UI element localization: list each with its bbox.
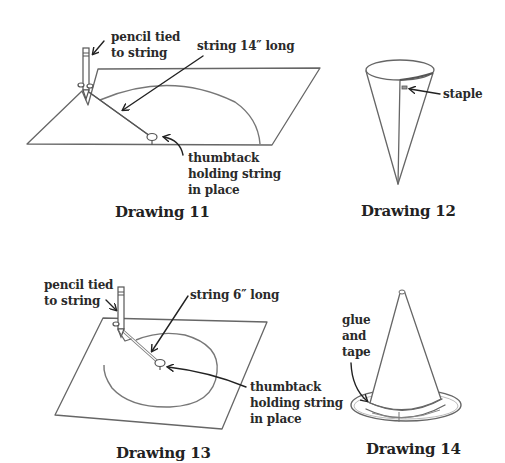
string-arrow (123, 56, 203, 110)
cone-rim (366, 60, 434, 80)
drawing-11-string-label: string 14″ long (197, 38, 294, 54)
drawing-11-pencil-label: pencil tied to string (111, 29, 180, 61)
staple-arrow (410, 89, 440, 94)
drawn-circle (104, 333, 217, 407)
thumbtack-icon (155, 360, 165, 371)
drawing-12-caption: Drawing 12 (361, 202, 456, 220)
drawing-11-caption: Drawing 11 (115, 203, 210, 221)
thumbtack-arrow (168, 367, 246, 387)
drawing-14-glue-label: glue and tape (342, 312, 371, 360)
pencil-icon (78, 48, 93, 99)
drawing-12-cone (366, 60, 440, 184)
drawing-13-string-label: string 6″ long (190, 287, 279, 303)
hat-cone (370, 291, 441, 410)
drawn-arc (100, 85, 260, 144)
pencil-arrow (93, 41, 104, 54)
drawing-12-staple-label: staple (443, 86, 482, 102)
staple-icon (402, 86, 407, 89)
thumbtack-icon (147, 134, 157, 146)
drawing-14-caption: Drawing 14 (366, 440, 461, 458)
string-arrow (152, 296, 188, 351)
paper-sheet (27, 68, 320, 145)
paper-sheet (55, 318, 267, 429)
thumbtack-arrow (164, 137, 183, 155)
drawing-13-pencil-label: pencil tied to string (44, 277, 113, 309)
drawing-13-caption: Drawing 13 (116, 444, 211, 462)
drawing-13-thumbtack-label: thumbtack holding string in place (250, 379, 343, 427)
pencil-icon (113, 287, 131, 341)
drawing-11-thumbtack-label: thumbtack holding string in place (188, 150, 281, 198)
